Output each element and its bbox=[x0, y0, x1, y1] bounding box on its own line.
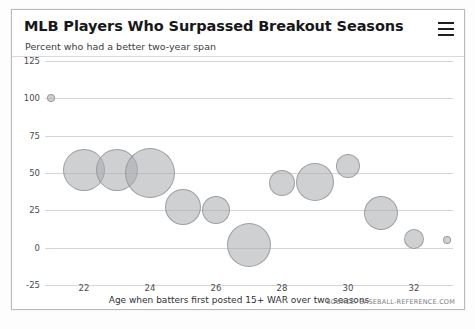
x-axis-tick: 24 bbox=[145, 283, 156, 293]
screenshot-root: MLB Players Who Surpassed Breakout Seaso… bbox=[0, 0, 475, 329]
gridline bbox=[45, 61, 453, 62]
data-bubble[interactable] bbox=[443, 236, 451, 244]
data-bubble[interactable] bbox=[296, 163, 334, 201]
data-bubble[interactable] bbox=[364, 196, 398, 230]
data-bubble[interactable] bbox=[336, 154, 360, 178]
data-bubble[interactable] bbox=[404, 229, 424, 249]
source-credit: SOURCE: BASEBALL-REFERENCE.COM bbox=[326, 298, 455, 306]
y-axis-tick: 50 bbox=[14, 168, 40, 178]
gridline bbox=[45, 136, 453, 137]
y-axis-tick: 0 bbox=[14, 243, 40, 253]
x-axis-tick: 32 bbox=[409, 283, 420, 293]
x-axis-tick: 30 bbox=[343, 283, 354, 293]
data-bubble[interactable] bbox=[227, 223, 271, 267]
x-axis-tick: 22 bbox=[79, 283, 90, 293]
data-bubble[interactable] bbox=[269, 170, 295, 196]
data-bubble[interactable] bbox=[125, 148, 175, 198]
y-axis-tick: 75 bbox=[14, 131, 40, 141]
x-axis-tick: 28 bbox=[277, 283, 288, 293]
scatter-plot: -250255075100125222426283032 bbox=[12, 10, 466, 311]
y-axis-tick: 125 bbox=[14, 56, 40, 66]
gridline bbox=[45, 285, 453, 286]
chart-card: MLB Players Who Surpassed Breakout Seaso… bbox=[11, 9, 465, 310]
x-axis-tick: 26 bbox=[211, 283, 222, 293]
gridline bbox=[45, 98, 453, 99]
y-axis-tick: 25 bbox=[14, 205, 40, 215]
y-axis-tick: 100 bbox=[14, 93, 40, 103]
data-bubble[interactable] bbox=[165, 189, 201, 225]
data-bubble[interactable] bbox=[202, 196, 230, 224]
y-axis-tick: -25 bbox=[14, 280, 40, 290]
data-bubble[interactable] bbox=[47, 94, 55, 102]
